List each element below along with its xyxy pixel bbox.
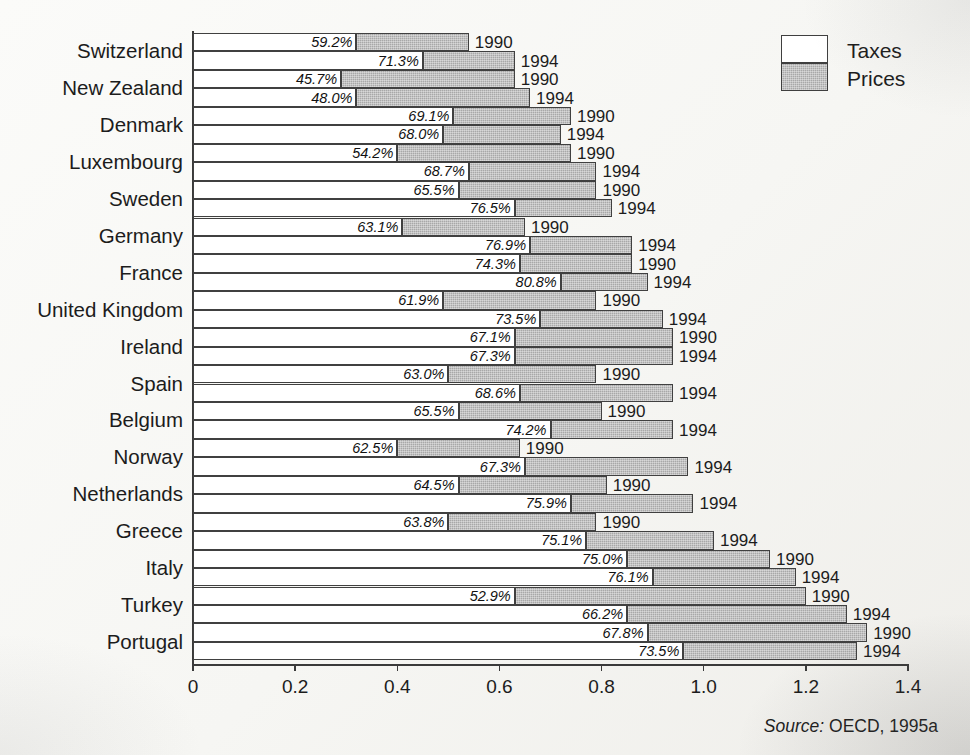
- bar-segment-prices: [402, 218, 525, 236]
- bar-segment-taxes: 73.5%: [193, 310, 540, 328]
- bar-value-label: 45.7%: [296, 72, 337, 87]
- bar-segment-prices: [515, 587, 806, 605]
- bar-segment-prices: [459, 402, 602, 420]
- bar-value-label: 74.3%: [475, 256, 516, 271]
- bar-value-label: 64.5%: [413, 478, 454, 493]
- x-tick-4: [601, 664, 603, 671]
- bar-segment-taxes: 73.5%: [193, 642, 683, 660]
- bar-segment-taxes: 76.5%: [193, 199, 515, 217]
- bar-row: 67.1%1990: [193, 328, 673, 346]
- bar-value-label: 74.2%: [505, 422, 546, 437]
- bar-segment-taxes: 63.8%: [193, 513, 448, 531]
- bar-year-label: 1990: [596, 181, 640, 198]
- bar-value-label: 68.0%: [398, 127, 439, 142]
- bar-segment-prices: [515, 347, 673, 365]
- bar-segment-prices: [397, 439, 520, 457]
- bar-segment-prices: [356, 88, 530, 106]
- bar-segment-prices: [530, 236, 632, 254]
- bar-year-label: 1990: [770, 550, 814, 567]
- bar-segment-prices: [627, 550, 770, 568]
- bar-year-label: 1994: [673, 421, 717, 438]
- bar-row: 63.8%1990: [193, 513, 596, 531]
- bar-row: 64.5%1990: [193, 476, 607, 494]
- category-label-norway: Norway: [12, 445, 192, 469]
- x-tick-label: 1.4: [895, 676, 921, 698]
- bar-row: 68.6%1994: [193, 384, 673, 402]
- bar-year-label: 1990: [571, 144, 615, 161]
- bar-segment-prices: [653, 568, 796, 586]
- category-label-denmark: Denmark: [12, 113, 192, 137]
- bar-segment-taxes: 65.5%: [193, 402, 459, 420]
- x-tick-label: 0.4: [384, 676, 410, 698]
- bar-row: 66.2%1994: [193, 605, 847, 623]
- bar-row: 48.0%1994: [193, 88, 530, 106]
- category-label-united-kingdom: United Kingdom: [12, 298, 192, 322]
- bar-row: 71.3%1994: [193, 51, 515, 69]
- bar-segment-taxes: 63.0%: [193, 365, 448, 383]
- category-label-new-zealand: New Zealand: [12, 76, 192, 100]
- bar-value-label: 67.1%: [470, 330, 511, 345]
- bar-row: 68.7%1994: [193, 162, 596, 180]
- bar-year-label: 1990: [525, 218, 569, 235]
- bar-row: 63.0%1990: [193, 365, 596, 383]
- bar-segment-prices: [515, 328, 673, 346]
- bar-value-label: 54.2%: [352, 146, 393, 161]
- bar-segment-prices: [453, 107, 570, 125]
- bar-row: 73.5%1994: [193, 310, 663, 328]
- bar-year-label: 1990: [596, 292, 640, 309]
- bar-row: 45.7%1990: [193, 70, 515, 88]
- bar-segment-prices: [341, 70, 515, 88]
- x-tick-7: [907, 664, 909, 671]
- bar-value-label: 67.8%: [602, 625, 643, 640]
- bar-segment-taxes: 67.8%: [193, 623, 648, 641]
- bar-row: 75.1%1994: [193, 531, 714, 549]
- bar-row: 76.5%1994: [193, 199, 612, 217]
- bar-value-label: 61.9%: [398, 293, 439, 308]
- bar-segment-prices: [648, 623, 868, 641]
- bar-segment-taxes: 71.3%: [193, 51, 423, 69]
- bar-year-label: 1990: [806, 587, 850, 604]
- plot-area: 59.2%199071.3%199445.7%199048.0%199469.1…: [193, 33, 908, 661]
- bar-row: 76.9%1994: [193, 236, 632, 254]
- bar-segment-prices: [551, 420, 674, 438]
- category-axis-labels: SwitzerlandNew ZealandDenmarkLuxembourgS…: [0, 0, 192, 755]
- bar-row: 67.3%1994: [193, 457, 688, 475]
- bar-year-label: 1994: [857, 643, 901, 660]
- page-background: SwitzerlandNew ZealandDenmarkLuxembourgS…: [0, 0, 970, 755]
- bar-segment-taxes: 64.5%: [193, 476, 459, 494]
- bar-segment-taxes: 80.8%: [193, 273, 561, 291]
- bar-segment-taxes: 76.1%: [193, 568, 653, 586]
- bar-year-label: 1994: [561, 126, 605, 143]
- bar-row: 67.3%1994: [193, 347, 673, 365]
- bar-year-label: 1990: [602, 403, 646, 420]
- bar-segment-prices: [356, 33, 468, 51]
- bar-value-label: 65.5%: [413, 183, 454, 198]
- bar-year-label: 1994: [673, 384, 717, 401]
- bar-value-label: 80.8%: [516, 275, 557, 290]
- bar-segment-taxes: 68.7%: [193, 162, 469, 180]
- bar-row: 68.0%1994: [193, 125, 561, 143]
- bar-value-label: 59.2%: [311, 35, 352, 50]
- bar-year-label: 1990: [632, 255, 676, 272]
- bar-segment-prices: [459, 476, 607, 494]
- category-label-spain: Spain: [12, 372, 192, 396]
- x-tick-label: 1.0: [690, 676, 716, 698]
- bar-segment-taxes: 74.2%: [193, 420, 551, 438]
- source-note: Source: OECD, 1995a: [0, 716, 938, 737]
- source-text: OECD, 1995a: [829, 716, 938, 736]
- bar-segment-prices: [540, 310, 663, 328]
- bar-value-label: 73.5%: [495, 312, 536, 327]
- x-tick-label: 0: [188, 676, 199, 698]
- category-label-germany: Germany: [12, 224, 192, 248]
- bar-year-label: 1990: [607, 476, 651, 493]
- bar-segment-taxes: 48.0%: [193, 88, 356, 106]
- bar-segment-prices: [571, 494, 694, 512]
- bar-year-label: 1994: [694, 495, 738, 512]
- bar-year-label: 1994: [632, 237, 676, 254]
- bar-segment-taxes: 68.6%: [193, 384, 520, 402]
- category-label-portugal: Portugal: [12, 630, 192, 654]
- bar-segment-taxes: 61.9%: [193, 291, 443, 309]
- bar-row: 80.8%1994: [193, 273, 648, 291]
- bar-year-label: 1994: [530, 89, 574, 106]
- bar-year-label: 1994: [596, 163, 640, 180]
